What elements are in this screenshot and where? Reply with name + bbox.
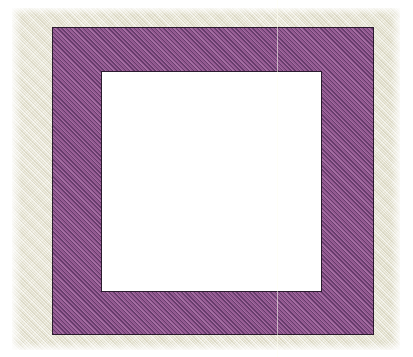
inner-white-square bbox=[101, 71, 322, 292]
figure-title: Hatched square annulus bbox=[0, 0, 1, 1]
figure-description: A purple diagonally-hatched square frame… bbox=[0, 0, 1, 1]
figure-canvas: Hatched square annulus A purple diagonal… bbox=[0, 0, 413, 357]
